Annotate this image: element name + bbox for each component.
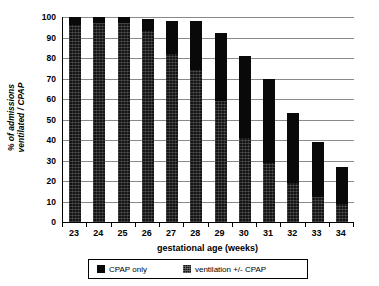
bar-segment-cpap-only <box>142 19 154 31</box>
y-axis-tick-label: 90 <box>47 33 56 43</box>
bar-segment-cpap-only <box>312 142 324 197</box>
x-axis-tick-label: 24 <box>93 228 103 238</box>
y-axis-tick-label: 0 <box>51 217 56 227</box>
x-axis-tick <box>256 222 257 227</box>
bar-stack <box>287 17 299 222</box>
legend-item-cpap-only: CPAP only <box>97 265 147 274</box>
x-axis-tick-label: 27 <box>166 228 176 238</box>
bar-stack <box>336 17 348 222</box>
bar-segment-ventilation <box>142 31 154 222</box>
x-axis-tick <box>208 222 209 227</box>
x-axis-tick-label: 26 <box>142 228 152 238</box>
y-axis-tick-labels: 0102030405060708090100 <box>30 11 60 228</box>
x-axis-tick <box>159 222 160 227</box>
y-axis-tick-label: 40 <box>47 135 56 145</box>
bar-stack <box>190 17 202 222</box>
y-axis-tick-label: 60 <box>47 94 56 104</box>
x-axis-tick <box>86 222 87 227</box>
bar-stack <box>215 17 227 222</box>
x-axis-tick <box>183 222 184 227</box>
x-axis-ticks <box>62 222 353 227</box>
bar-segment-cpap-only <box>166 21 178 54</box>
bar-stack <box>93 17 105 222</box>
bar-stack <box>142 17 154 222</box>
y-axis-tick-label: 70 <box>47 74 56 84</box>
x-axis-tick <box>232 222 233 227</box>
legend-label-ventilation: ventilation +/- CPAP <box>195 265 266 274</box>
bar-segment-cpap-only <box>287 113 299 183</box>
y-axis-tick-label: 50 <box>47 115 56 125</box>
x-axis-tick <box>135 222 136 227</box>
bar-stack <box>166 17 178 222</box>
x-axis-tick-labels: 232425262728293031323334 <box>62 228 353 242</box>
chart-figure: % of admissions ventilated / CPAP 010203… <box>0 0 379 286</box>
x-axis-title: gestational age (weeks) <box>62 243 353 253</box>
bar-segment-cpap-only <box>239 56 251 138</box>
y-axis-tick-label: 80 <box>47 53 56 63</box>
bar-segment-cpap-only <box>215 33 227 101</box>
bar-stack <box>69 17 81 222</box>
bar-segment-cpap-only <box>336 167 348 204</box>
bar-stack <box>312 17 324 222</box>
legend-swatch-icon-cpap-only <box>97 265 105 273</box>
chart-legend: CPAP only ventilation +/- CPAP <box>88 259 308 279</box>
bar-segment-ventilation <box>287 183 299 222</box>
x-axis-tick-label: 28 <box>190 228 200 238</box>
bar-segment-ventilation <box>190 70 202 222</box>
bar-segment-ventilation <box>263 163 275 222</box>
legend-swatch-icon-ventilation <box>183 265 191 273</box>
y-axis-title: % of admissions ventilated / CPAP <box>4 30 28 205</box>
bar-segment-ventilation <box>93 23 105 222</box>
bar-stack <box>239 17 251 222</box>
bar-stack <box>118 17 130 222</box>
x-axis-tick-label: 33 <box>312 228 322 238</box>
bar-segment-ventilation <box>215 101 227 222</box>
x-axis-tick-label: 23 <box>69 228 79 238</box>
legend-label-cpap-only: CPAP only <box>109 265 147 274</box>
x-axis-tick-label: 29 <box>215 228 225 238</box>
y-axis-title-wrapper: % of admissions ventilated / CPAP <box>4 30 28 205</box>
bar-segment-ventilation <box>336 204 348 222</box>
legend-item-ventilation: ventilation +/- CPAP <box>183 265 266 274</box>
x-axis-tick-label: 31 <box>263 228 273 238</box>
x-axis-tick-label: 30 <box>239 228 249 238</box>
x-axis-tick <box>62 222 63 227</box>
bar-segment-ventilation <box>118 23 130 222</box>
x-axis-tick-label: 34 <box>336 228 346 238</box>
y-axis-tick-label: 20 <box>47 176 56 186</box>
y-axis-tick-label: 30 <box>47 156 56 166</box>
bar-segment-ventilation <box>239 138 251 222</box>
bar-segment-cpap-only <box>263 79 275 163</box>
y-axis-tick-label: 100 <box>42 12 56 22</box>
bar-segment-cpap-only <box>69 17 81 25</box>
plot-area <box>62 17 354 223</box>
x-axis-tick-label: 32 <box>287 228 297 238</box>
x-axis-tick <box>111 222 112 227</box>
bar-segment-ventilation <box>312 197 324 222</box>
x-axis-tick <box>329 222 330 227</box>
x-axis-tick <box>353 222 354 227</box>
x-axis-tick <box>280 222 281 227</box>
x-axis-tick <box>305 222 306 227</box>
bar-stack <box>263 17 275 222</box>
bar-series-group <box>63 17 354 222</box>
bar-segment-cpap-only <box>190 21 202 70</box>
bar-segment-ventilation <box>166 54 178 222</box>
bar-segment-ventilation <box>69 25 81 222</box>
y-axis-tick-label: 10 <box>47 197 56 207</box>
x-axis-tick-label: 25 <box>118 228 128 238</box>
